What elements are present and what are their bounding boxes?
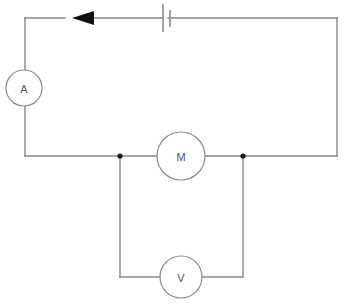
voltmeter-symbol[interactable]: V (160, 256, 202, 298)
motor-label: M (176, 151, 185, 163)
junction-dot-right (240, 153, 245, 158)
motor-symbol[interactable]: M (157, 132, 205, 180)
current-direction-arrow-icon (72, 11, 94, 25)
ammeter-label: A (20, 83, 28, 95)
circuit-diagram-canvas: A M V (0, 0, 352, 304)
junction-dot-left (117, 153, 122, 158)
circuit-schematic: A M V (0, 0, 352, 304)
ammeter-symbol[interactable]: A (6, 70, 42, 106)
voltmeter-label: V (177, 272, 185, 284)
